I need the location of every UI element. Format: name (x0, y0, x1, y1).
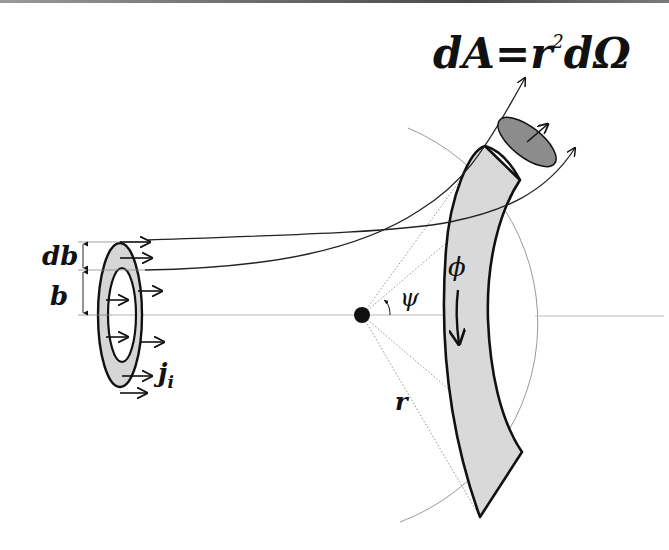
label-b: b (50, 281, 68, 311)
label-phi: ϕ (448, 252, 466, 282)
scattering-center (354, 307, 370, 323)
label-r: r (395, 387, 410, 416)
detector-band (444, 146, 522, 517)
scattering-diagram: db b ji ϕ ψ r dA=r2dΩ (0, 0, 669, 550)
label-db: db (42, 241, 78, 271)
label-j: ji (153, 358, 174, 392)
formula-area: dA=r2dΩ (433, 29, 631, 78)
label-psi: ψ (400, 284, 420, 312)
label-j-subscript: i (167, 372, 173, 392)
psi-angle-arc (384, 300, 390, 315)
